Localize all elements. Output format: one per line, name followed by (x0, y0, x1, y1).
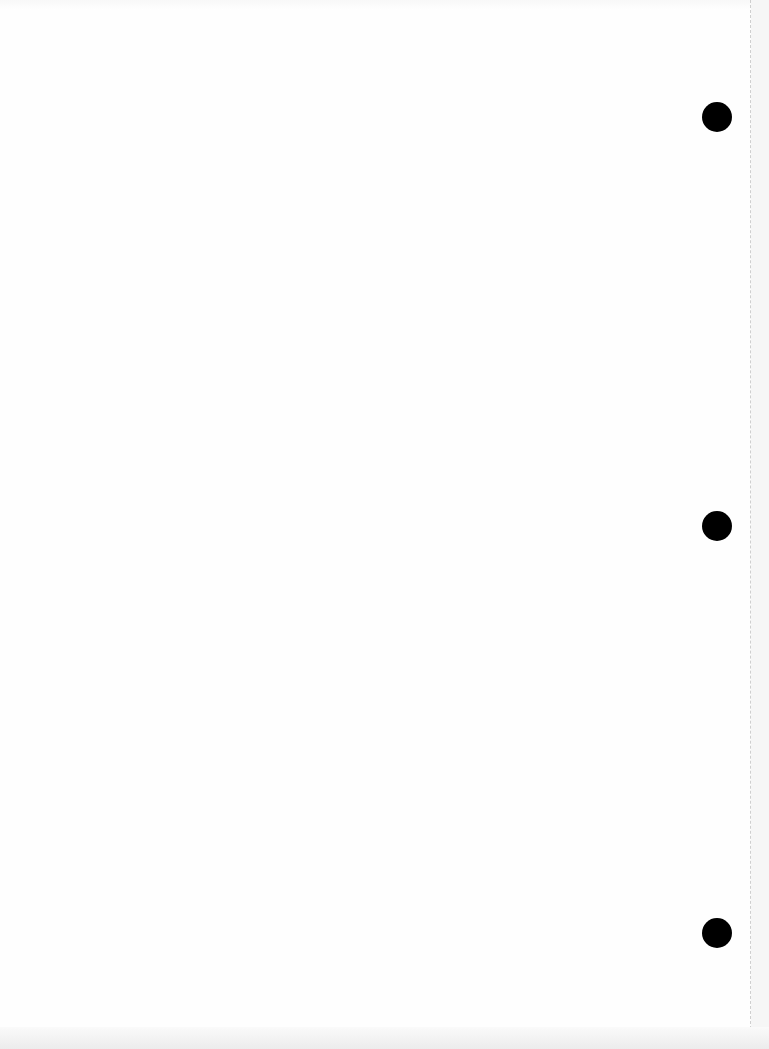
punch-hole-middle (702, 511, 732, 541)
punch-hole-bottom (702, 918, 732, 948)
perforation-line (750, 0, 751, 1049)
punch-hole-top (702, 102, 732, 132)
blank-page (0, 0, 769, 1049)
page-edge-strip (751, 0, 769, 1049)
scan-edge-shade (0, 0, 769, 10)
scan-bottom-shadow (0, 1027, 769, 1049)
